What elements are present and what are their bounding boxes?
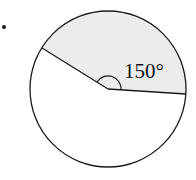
circle-sector-diagram: 150° [0,0,196,180]
angle-label: 150° [124,59,164,83]
shaded-sector [42,11,186,94]
list-bullet [2,25,6,29]
